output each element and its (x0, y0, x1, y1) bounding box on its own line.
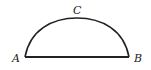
arc-acb (25, 18, 129, 57)
arc-diagram: A B C (0, 0, 151, 70)
label-c: C (73, 4, 82, 17)
label-b: B (133, 52, 142, 65)
label-a: A (11, 52, 20, 65)
